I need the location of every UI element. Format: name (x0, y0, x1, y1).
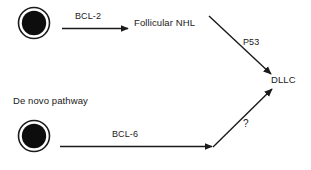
edge-label-bcl2: BCL-2 (75, 11, 101, 21)
node-cell-top (19, 8, 50, 39)
pathway-diagram: Follicular NHL DLLC De novo pathway BCL-… (0, 0, 311, 170)
node-label-dllc: DLLC (271, 74, 296, 85)
edge-label-p53: P53 (243, 37, 259, 47)
edge-label-question-mark: ? (243, 119, 249, 129)
node-label-follicular-nhl: Follicular NHL (134, 17, 195, 28)
node-cell-bottom (19, 121, 50, 152)
node-label-de-novo-pathway: De novo pathway (13, 95, 88, 106)
edge-label-bcl6: BCL-6 (112, 129, 138, 139)
edge-p53-arrow (209, 16, 271, 74)
